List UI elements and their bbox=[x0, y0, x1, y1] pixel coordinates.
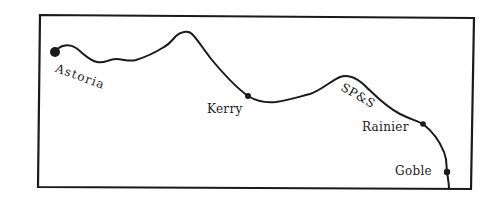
town-marker-goble bbox=[444, 169, 450, 175]
town-marker-rainier bbox=[420, 121, 426, 127]
town-marker-kerry bbox=[245, 93, 251, 99]
railroad-line bbox=[55, 32, 449, 189]
town-label-goble: Goble bbox=[395, 165, 432, 177]
map-frame bbox=[38, 15, 474, 189]
town-marker-astoria bbox=[50, 47, 60, 57]
town-label-rainier: Rainier bbox=[362, 121, 409, 133]
town-label-kerry: Kerry bbox=[207, 103, 243, 115]
